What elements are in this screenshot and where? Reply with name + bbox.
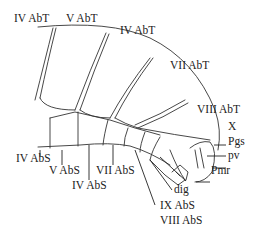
- tergite-boundaries: [35, 28, 210, 140]
- label-vii-abt: VII AbT: [170, 59, 209, 71]
- abdomen-diagram: IV AbT V AbT IV AbT VII AbT VIII AbT X P…: [0, 0, 258, 232]
- label-v-abt: V AbT: [66, 12, 97, 24]
- label-dig: dig: [174, 183, 189, 196]
- label-ix-abs: IX AbS: [160, 199, 195, 211]
- label-vi-abt: IV AbT: [120, 24, 155, 36]
- label-viii-abs: VIII AbS: [160, 214, 203, 226]
- label-iv-abt: IV AbT: [14, 12, 49, 24]
- label-vii-abs: VII AbS: [96, 164, 135, 176]
- label-pmr: Pmr: [211, 164, 230, 176]
- label-viii-abt: VIII AbT: [197, 103, 240, 115]
- label-pgs: Pgs: [228, 135, 245, 148]
- label-v-abs: V AbS: [49, 164, 80, 176]
- label-pv: pv: [228, 149, 240, 162]
- label-vi-abs: IV AbS: [72, 179, 107, 191]
- label-x: X: [228, 120, 237, 132]
- label-iv-abs: IV AbS: [16, 152, 51, 164]
- terminal-structures: [172, 142, 215, 182]
